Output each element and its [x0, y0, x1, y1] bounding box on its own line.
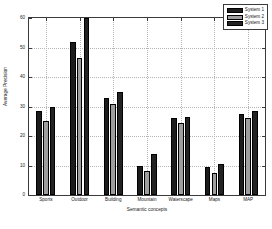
y-axis-tick: [29, 77, 32, 78]
y-axis-title: Average Precision: [4, 67, 9, 106]
x-axis-tick-top: [80, 18, 81, 21]
bar-maps-system-1: [205, 167, 211, 195]
chart-legend: System 1System 2System 3: [223, 4, 268, 30]
x-axis-tick-label: MAP: [243, 198, 253, 203]
y-axis-tick-label: 60: [20, 16, 25, 21]
y-axis-tick: [29, 48, 32, 49]
y-axis-tick: [29, 166, 32, 167]
bar-map-system-2: [245, 118, 251, 195]
y-axis-tick-label: 50: [20, 45, 25, 50]
bar-outdoor-system-1: [70, 42, 76, 195]
legend-swatch-1: [227, 8, 243, 13]
x-axis-tick-label: Sports: [39, 198, 52, 203]
y-axis-tick-right: [262, 107, 265, 108]
legend-label: System 3: [245, 21, 264, 26]
legend-item: System 3: [227, 21, 264, 27]
y-axis-tick-right: [262, 166, 265, 167]
bar-map-system-3: [252, 111, 258, 195]
legend-item: System 2: [227, 14, 264, 20]
legend-label: System 1: [245, 8, 264, 13]
x-axis-tick-top: [46, 18, 47, 21]
bar-maps-system-3: [218, 164, 224, 195]
bar-map-system-1: [239, 114, 245, 195]
x-axis-tick-label: Outdoor: [71, 198, 88, 203]
y-axis-tick-label: 0: [22, 193, 25, 198]
y-axis-tick: [29, 18, 32, 19]
y-axis-tick-label: 30: [20, 104, 25, 109]
x-axis-tick-label: Maps: [209, 198, 220, 203]
legend-swatch-3: [227, 21, 243, 26]
bar-building-system-3: [117, 92, 123, 195]
plot-area: 0102030405060SportsOutdoorBuildingMounta…: [28, 17, 266, 196]
bar-mountain-system-3: [151, 154, 157, 195]
x-axis-tick-label: Waterscape: [169, 198, 193, 203]
gridline-vertical: [214, 18, 215, 195]
y-axis-tick-label: 40: [20, 75, 25, 80]
y-axis-tick-right: [262, 48, 265, 49]
y-axis-tick-label: 10: [20, 163, 25, 168]
y-axis-tick: [29, 107, 32, 108]
y-axis-tick: [29, 136, 32, 137]
x-axis-tick-top: [147, 18, 148, 21]
x-axis-tick-label: Building: [105, 198, 121, 203]
x-axis-tick-label: Mountain: [138, 198, 157, 203]
x-axis-title: Semantic concepts: [28, 208, 266, 213]
bar-mountain-system-1: [137, 166, 143, 196]
bar-waterscape-system-1: [171, 118, 177, 195]
legend-swatch-2: [227, 15, 243, 20]
x-axis-tick-top: [181, 18, 182, 21]
y-axis-tick-right: [262, 136, 265, 137]
bar-mountain-system-2: [144, 171, 150, 195]
y-axis-tick-right: [262, 195, 265, 196]
bar-outdoor-system-3: [84, 18, 90, 195]
legend-item: System 1: [227, 8, 264, 14]
y-axis-tick: [29, 195, 32, 196]
bar-outdoor-system-2: [77, 58, 83, 195]
bar-building-system-2: [110, 104, 116, 195]
bar-waterscape-system-3: [185, 117, 191, 195]
x-axis-tick-top: [214, 18, 215, 21]
bar-chart-figure: 0102030405060SportsOutdoorBuildingMounta…: [0, 0, 272, 229]
bar-sports-system-2: [43, 121, 49, 195]
y-axis-tick-right: [262, 77, 265, 78]
bar-building-system-1: [104, 98, 110, 195]
bar-maps-system-2: [212, 173, 218, 195]
gridline-vertical: [147, 18, 148, 195]
legend-label: System 2: [245, 15, 264, 20]
bar-waterscape-system-2: [178, 123, 184, 195]
y-axis-tick-label: 20: [20, 134, 25, 139]
x-axis-tick-top: [113, 18, 114, 21]
bar-sports-system-3: [50, 107, 56, 196]
bar-sports-system-1: [36, 111, 42, 195]
